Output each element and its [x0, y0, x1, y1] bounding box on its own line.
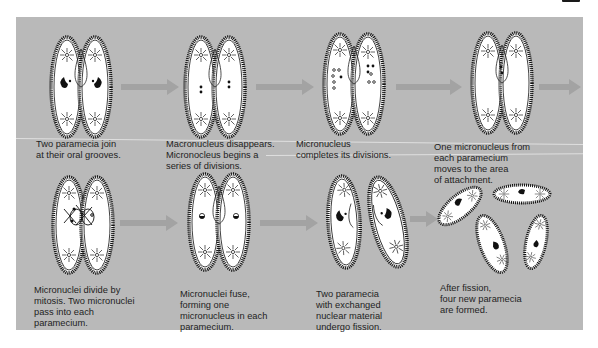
- paramecia-separated-icon: [326, 174, 416, 270]
- page-number-clipped: [562, 0, 580, 2]
- two-paramecia-joined-icon: [50, 35, 112, 139]
- paramecia-divisions-complete-icon: [323, 32, 385, 136]
- step-5-caption: Micronuclei divide by mitosis. Two micro…: [34, 285, 135, 329]
- paramecia-micronucleus-dividing-icon: [184, 35, 246, 139]
- step-3-illustration: [323, 32, 385, 136]
- step-arrow-6-7: [260, 215, 320, 231]
- step-3-caption: Micronucleus completes its divisions.: [296, 139, 391, 161]
- paramecia-mitosis-exchange-icon: [52, 175, 114, 275]
- step-6-caption: Micronuclei fuse, forming one micronucle…: [180, 289, 267, 333]
- step-8-caption: After fission, four new paramecia are fo…: [440, 283, 522, 316]
- step-arrow-5-6: [120, 215, 180, 231]
- step-arrow-4-5: [539, 79, 583, 95]
- paramecia-micronuclei-fused-icon: [188, 172, 250, 272]
- step-8-illustration: [442, 184, 552, 284]
- step-1-illustration: [50, 35, 112, 139]
- four-new-paramecia-icon: [442, 184, 552, 284]
- step-5-illustration: [52, 175, 114, 275]
- step-arrow-7-8: [410, 211, 440, 227]
- step-6-illustration: [188, 172, 250, 272]
- step-2-caption: Macronucleus disappears. Micronocleus be…: [166, 139, 275, 172]
- paramecia-attachment-icon: [471, 31, 533, 135]
- step-7-caption: Two paramecia with exchanged nuclear mat…: [316, 289, 382, 333]
- step-arrow-1-2: [121, 79, 181, 95]
- diagram-panel: Two paramecia join at their oral grooves…: [16, 17, 583, 330]
- step-4-illustration: [471, 31, 533, 135]
- step-4-caption: One micronucleus from each paramecium mo…: [434, 142, 530, 186]
- step-2-illustration: [184, 35, 246, 139]
- step-1-caption: Two paramecia join at their oral grooves…: [36, 139, 121, 161]
- step-arrow-2-3: [256, 79, 316, 95]
- step-7-illustration: [326, 174, 416, 270]
- step-arrow-3-4: [396, 79, 464, 95]
